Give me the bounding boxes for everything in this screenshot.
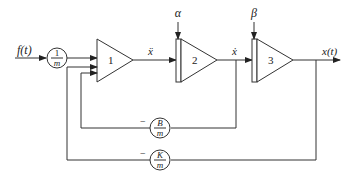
xdot-label: ẋ (231, 45, 237, 57)
amp2-label: 2 (192, 54, 198, 66)
spring-sign: − (140, 148, 146, 159)
amp1-label: 1 (108, 54, 114, 66)
alpha-label: α (175, 6, 182, 20)
output-label: x(t) (321, 45, 338, 58)
input-label: f(t) (17, 43, 32, 57)
spring-gain-den: m (157, 160, 164, 170)
amplifier-1: 1 (97, 39, 133, 82)
input-gain-num: 1 (55, 48, 60, 58)
block-diagram: f(t) 1 m 1 ẍ 2 α ẋ 3 β x(t) B m (0, 0, 355, 183)
input-gain-den: m (54, 58, 61, 68)
spring-gain-circle: K m (150, 150, 170, 170)
damping-gain-num: B (157, 118, 163, 128)
input-gain-circle: 1 m (47, 48, 67, 68)
amp3-label: 3 (268, 54, 274, 66)
damping-gain-den: m (157, 128, 164, 138)
beta-label: β (250, 6, 257, 20)
integrator-2: 2 (176, 39, 217, 82)
spring-feedback-left (67, 67, 150, 160)
spring-gain-num: K (156, 150, 164, 160)
integrator-3: 3 (252, 39, 293, 82)
xddot-label: ẍ (147, 45, 153, 57)
damping-sign: − (140, 116, 146, 127)
damping-gain-circle: B m (150, 118, 170, 138)
